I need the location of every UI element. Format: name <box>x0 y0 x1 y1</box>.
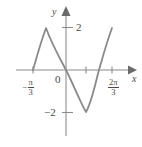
fraction-pi-over-3: π 3 <box>28 78 34 97</box>
graph-canvas <box>0 0 142 147</box>
y-tick-label-two: 2 <box>76 22 82 33</box>
y-axis-label: y <box>52 7 56 17</box>
origin-label: 0 <box>55 74 61 85</box>
y-axis-arrow-icon <box>62 6 71 16</box>
x-axis-label: x <box>132 74 136 84</box>
fraction-denominator: 3 <box>28 88 34 97</box>
y-tick-label-negative-two: −2 <box>44 107 56 118</box>
fraction-2pi-over-3: 2π 3 <box>108 78 119 97</box>
x-tick-label-2pi-over-3: 2π 3 <box>108 78 119 97</box>
math-graph-figure: y x 2 −2 0 − π 3 2π 3 <box>0 0 142 147</box>
fraction-denominator: 3 <box>108 88 119 97</box>
minus-sign: − <box>22 83 27 92</box>
x-tick-label-minus-pi-over-3: − π 3 <box>22 78 34 97</box>
